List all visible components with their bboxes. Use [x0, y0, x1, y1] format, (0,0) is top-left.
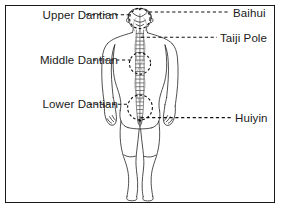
label-lower-dantian: Lower Dantian [6, 98, 118, 110]
label-middle-dantian: Middle Dantian [4, 54, 118, 66]
label-upper-dantian: Upper Dantian [8, 9, 118, 21]
label-taiji-pole: Taiji Pole [220, 32, 267, 44]
label-huiyin: Huiyin [235, 112, 268, 124]
diagram-canvas: Upper Dantian Middle Dantian Lower Danti… [0, 0, 281, 209]
label-baihui: Baihui [233, 7, 266, 19]
